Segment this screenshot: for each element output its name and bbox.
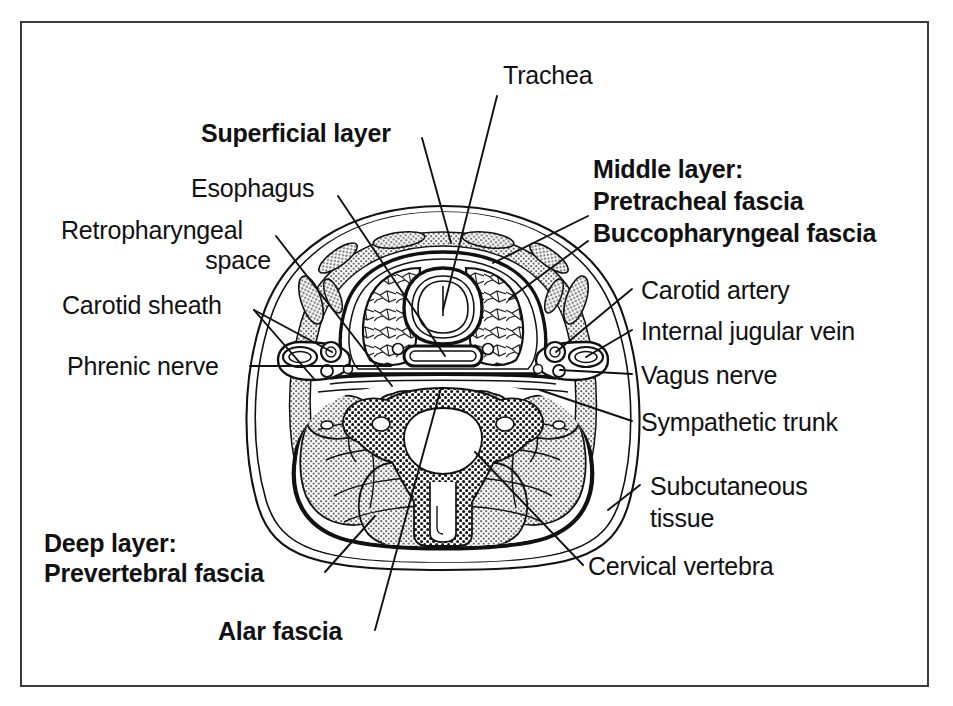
label-buccopharyngeal-fascia: Buccopharyngeal fascia	[593, 218, 876, 248]
label-middle-layer-heading: Middle layer:	[593, 154, 743, 184]
label-superficial-layer: Superficial layer	[201, 118, 391, 148]
label-pretracheal-fascia: Pretracheal fascia	[593, 186, 803, 216]
label-subcutaneous-tissue-line1: Subcutaneous	[650, 471, 807, 501]
label-esophagus: Esophagus	[191, 173, 314, 203]
label-phrenic-nerve: Phrenic nerve	[67, 351, 219, 381]
label-carotid-artery: Carotid artery	[641, 275, 790, 305]
label-retropharyngeal-space-line2: space	[61, 245, 271, 275]
label-alar-fascia: Alar fascia	[218, 616, 342, 646]
label-deep-layer-heading: Deep layer:	[44, 528, 177, 558]
visceral-compartment	[340, 252, 546, 374]
label-internal-jugular-vein: Internal jugular vein	[641, 316, 855, 346]
label-vagus-nerve: Vagus nerve	[641, 360, 777, 390]
label-subcutaneous-tissue-line2: tissue	[650, 503, 714, 533]
carotid-sheath-left	[278, 342, 353, 380]
label-sympathetic-trunk: Sympathetic trunk	[641, 407, 838, 437]
figure-page: Trachea Superficial layer Esophagus Retr…	[0, 0, 953, 706]
label-retropharyngeal-space-line1: Retropharyngeal	[61, 215, 243, 245]
label-prevertebral-fascia: Prevertebral fascia	[44, 558, 264, 588]
carotid-sheath-right	[534, 342, 609, 380]
label-cervical-vertebra: Cervical vertebra	[588, 551, 774, 581]
label-trachea: Trachea	[503, 60, 592, 90]
label-carotid-sheath: Carotid sheath	[62, 290, 222, 320]
